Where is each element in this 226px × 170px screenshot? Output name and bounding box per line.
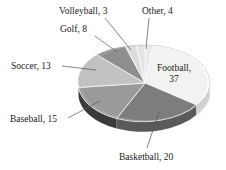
slice-label-baseball: Baseball, 15	[10, 114, 57, 125]
pie-chart-figure: Volleyball, 3 Other, 4 Golf, 8 Soccer, 1…	[0, 0, 226, 170]
pie-chart-graphic	[0, 0, 226, 170]
slice-label-volleyball: Volleyball, 3	[59, 6, 107, 17]
slice-label-basketball: Basketball, 20	[119, 152, 173, 163]
leader-line-other	[146, 18, 149, 49]
slice-label-football-name: Football,	[157, 63, 191, 74]
slice-label-golf: Golf, 8	[60, 24, 87, 35]
slice-label-other: Other, 4	[142, 6, 173, 17]
slice-label-football-value: 37	[157, 74, 191, 85]
slice-label-football: Football, 37	[157, 63, 191, 85]
slice-label-soccer: Soccer, 13	[11, 61, 51, 72]
leader-line-volleyball	[105, 18, 131, 50]
leader-line-golf	[95, 36, 117, 52]
